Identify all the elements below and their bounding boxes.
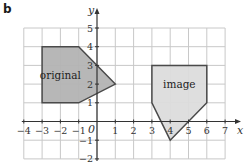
x-tick-label: −3: [35, 125, 49, 136]
x-tick-label: 7: [222, 125, 228, 136]
origin-label: 0: [88, 123, 95, 136]
y-tick-label: 4: [87, 41, 93, 52]
x-axis-label: x: [237, 124, 244, 137]
x-tick-label: 2: [131, 125, 137, 136]
x-tick-label: 4: [167, 125, 173, 136]
y-axis-arrow-icon: [95, 8, 100, 14]
x-tick-label: −2: [53, 125, 67, 136]
x-tick-label: 3: [149, 125, 155, 136]
x-tick-label: 6: [204, 125, 210, 136]
y-tick-label: 1: [87, 97, 93, 108]
shape-image: [152, 65, 207, 140]
y-tick-label: 3: [87, 60, 93, 71]
y-tick-label: −2: [79, 153, 93, 164]
y-tick-label: 5: [87, 23, 93, 34]
x-tick-label: 1: [112, 125, 118, 136]
y-tick-label: 2: [87, 79, 93, 90]
shape-label-original: original: [40, 69, 82, 81]
y-tick-label: −1: [79, 135, 93, 146]
shape-label-image: image: [163, 78, 196, 90]
x-tick-label: −4: [17, 125, 31, 136]
y-axis-label: y: [87, 4, 95, 17]
coordinate-grid-diagram: originalimage −4−3−2−11234567−2−1123450x…: [0, 0, 245, 165]
x-tick-label: 5: [185, 125, 191, 136]
